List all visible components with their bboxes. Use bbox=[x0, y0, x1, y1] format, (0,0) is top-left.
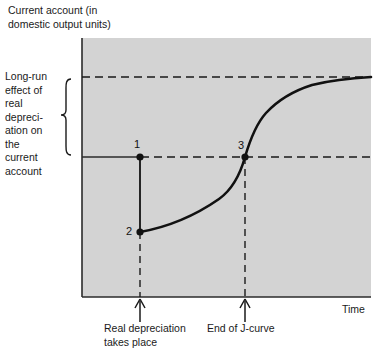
j-curve-figure: Current account (in domestic output unit… bbox=[0, 0, 379, 357]
long-run-effect-brace-icon bbox=[61, 79, 71, 155]
point-1-label: 1 bbox=[134, 138, 140, 150]
j-curve-plot bbox=[0, 0, 379, 357]
depreciation-event-label: Real depreciation takes place bbox=[104, 321, 204, 349]
point-2-marker bbox=[136, 228, 143, 235]
depreciation-arrow-icon bbox=[135, 299, 145, 322]
end-of-jcurve-event-label: End of J-curve bbox=[207, 321, 317, 335]
point-2-label: 2 bbox=[126, 225, 132, 237]
end-of-jcurve-arrow-icon bbox=[240, 299, 250, 322]
point-1-marker bbox=[136, 153, 143, 160]
point-3-marker bbox=[241, 153, 248, 160]
point-3-label: 3 bbox=[238, 139, 244, 151]
x-axis-title: Time bbox=[342, 303, 365, 315]
